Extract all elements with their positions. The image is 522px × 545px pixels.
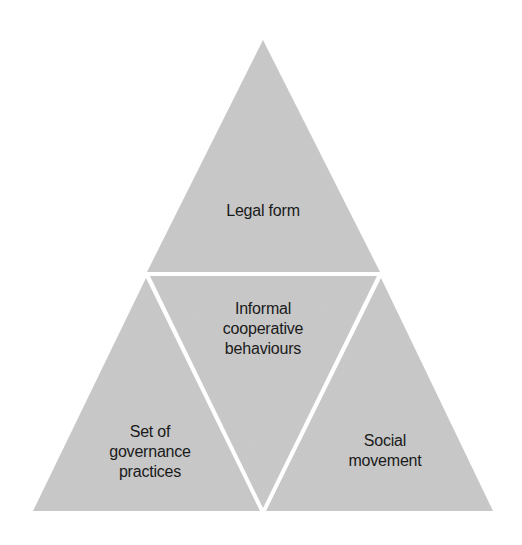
label-line: movement	[320, 451, 450, 471]
label-line: Social	[320, 431, 450, 451]
label-line: Informal	[183, 299, 343, 319]
top-triangle	[147, 40, 380, 272]
label-line: behaviours	[183, 339, 343, 359]
label-line: cooperative	[183, 319, 343, 339]
label-line: Set of	[80, 422, 220, 442]
label-set-of-governance-practices: Set of governance practices	[80, 422, 220, 482]
label-social-movement: Social movement	[320, 431, 450, 471]
label-informal-cooperative-behaviours: Informal cooperative behaviours	[183, 299, 343, 359]
label-line: governance	[80, 442, 220, 462]
label-legal-form: Legal form	[183, 201, 343, 221]
label-line: Legal form	[183, 201, 343, 221]
label-line: practices	[80, 462, 220, 482]
